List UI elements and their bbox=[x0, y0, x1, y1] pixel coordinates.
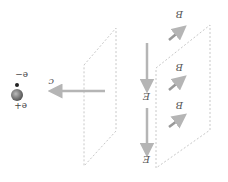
b-field-arrow-2 bbox=[169, 80, 181, 90]
b-field-label-3: B bbox=[176, 100, 184, 111]
proton bbox=[11, 89, 23, 101]
proton-label: e+ bbox=[14, 101, 27, 111]
b-field-label-1: B bbox=[176, 9, 184, 20]
b-field-arrow-1 bbox=[169, 30, 181, 40]
wavefront-plane-right bbox=[156, 25, 210, 168]
electron-label: e− bbox=[15, 70, 28, 80]
b-field-label-2: B bbox=[176, 62, 184, 73]
wavefront-plane-left bbox=[84, 28, 116, 166]
e-field-label-2: E bbox=[142, 154, 151, 165]
speed-label: c bbox=[48, 77, 54, 88]
b-field-arrow-3 bbox=[169, 118, 181, 127]
em-wave-diagram: c E E B B B e− e+ bbox=[0, 0, 228, 182]
electron bbox=[15, 83, 19, 87]
e-field-label-1: E bbox=[142, 91, 151, 102]
